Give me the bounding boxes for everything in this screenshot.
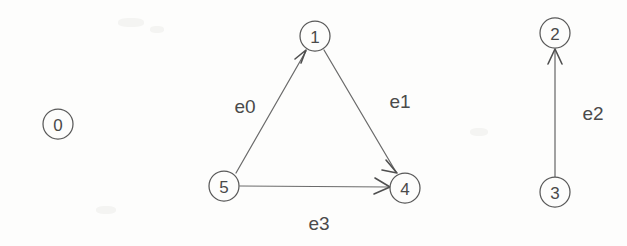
node-3[interactable]: 3 [540, 177, 570, 207]
edge-e2-label: e2 [582, 103, 603, 124]
edge-e1-line [324, 50, 396, 172]
node-4-label: 4 [400, 180, 409, 199]
node-1-label: 1 [310, 28, 319, 47]
graph-svg: e0 e1 e3 e2 0 1 [0, 0, 627, 246]
diagram-canvas: e0 e1 e3 e2 0 1 [0, 0, 627, 246]
edge-e3-arrowhead [374, 178, 390, 194]
edge-e2[interactable]: e2 [548, 49, 604, 177]
edge-e3-line [240, 186, 389, 187]
node-4[interactable]: 4 [390, 173, 420, 203]
node-0[interactable]: 0 [43, 109, 73, 139]
node-3-label: 3 [550, 184, 559, 203]
edge-e1[interactable]: e1 [324, 50, 411, 173]
node-5[interactable]: 5 [209, 171, 239, 201]
edge-e0[interactable]: e0 [234, 50, 306, 173]
edge-e1-label: e1 [389, 91, 410, 112]
node-0-label: 0 [53, 116, 62, 135]
edge-e3-label: e3 [308, 213, 329, 234]
node-2-label: 2 [550, 25, 559, 44]
edge-e3[interactable]: e3 [240, 178, 390, 234]
edge-e0-label: e0 [234, 96, 255, 117]
node-2[interactable]: 2 [540, 18, 570, 48]
node-5-label: 5 [219, 178, 228, 197]
node-1[interactable]: 1 [300, 21, 330, 51]
